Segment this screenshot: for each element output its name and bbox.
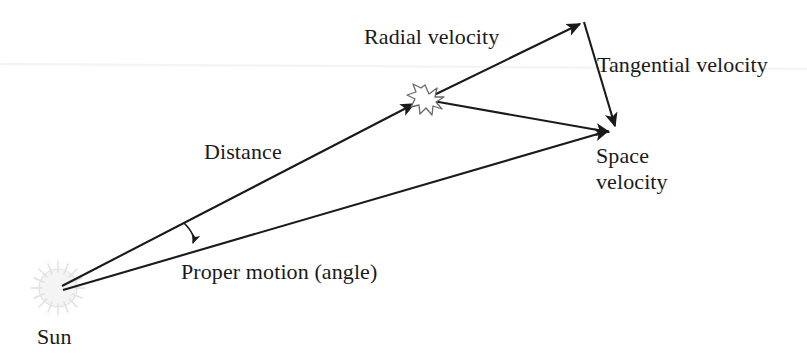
stellar-velocity-diagram: Radial velocity Tangential velocity Dist… (0, 0, 807, 363)
label-distance: Distance (204, 139, 282, 165)
label-space-velocity: Space velocity (596, 143, 668, 195)
label-radial-velocity: Radial velocity (364, 24, 499, 50)
sun-burst-icon (31, 261, 85, 315)
label-sun: Sun (37, 324, 72, 350)
proper-motion-angle-arc (184, 223, 194, 243)
label-proper-motion: Proper motion (angle) (181, 259, 377, 285)
star-burst-icon (407, 84, 444, 115)
label-tangential-velocity: Tangential velocity (597, 52, 768, 78)
label-space-velocity-line2: velocity (596, 169, 668, 195)
label-space-velocity-line1: Space (596, 143, 668, 169)
space-velocity-vector (433, 101, 609, 132)
